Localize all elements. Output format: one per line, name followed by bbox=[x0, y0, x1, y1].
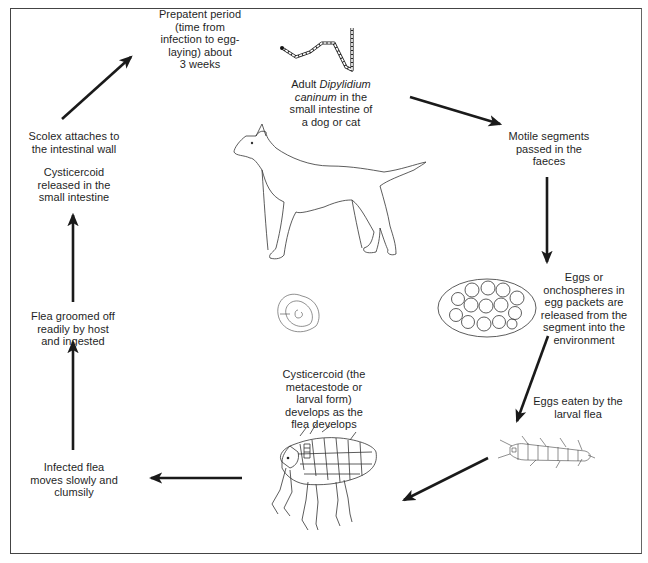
label-line: released from the bbox=[532, 309, 636, 322]
label-line: larval form) bbox=[268, 393, 380, 406]
label-line: Infected flea bbox=[22, 461, 126, 474]
label-line: a dog or cat bbox=[276, 116, 386, 129]
label-line: Prepatent period bbox=[145, 8, 255, 21]
label-text: in the bbox=[337, 91, 367, 103]
label-cysticercoid-released: Cysticercoid released in the small intes… bbox=[22, 166, 126, 204]
label-line: and ingested bbox=[20, 335, 126, 348]
label-line: onchospheres in bbox=[532, 284, 636, 297]
label-line: egg packets are bbox=[532, 296, 636, 309]
label-line: clumsily bbox=[22, 486, 126, 499]
label-line: released in the bbox=[22, 179, 126, 192]
species-name: Dipylidium bbox=[320, 78, 371, 90]
label-eggs-eaten: Eggs eaten by the larval flea bbox=[524, 395, 632, 420]
label-line: Cysticercoid (the bbox=[268, 368, 380, 381]
label-line: flea develops bbox=[268, 418, 380, 431]
label-infected-flea: Infected flea moves slowly and clumsily bbox=[22, 461, 126, 499]
label-line: readily by host bbox=[20, 323, 126, 336]
label-line: passed in the bbox=[494, 143, 604, 156]
label-line: Cysticercoid bbox=[22, 166, 126, 179]
label-line: Eggs eaten by the bbox=[524, 395, 632, 408]
label-flea-groomed: Flea groomed off readily by host and ing… bbox=[20, 310, 126, 348]
label-line: small intestine of bbox=[276, 103, 386, 116]
label-adult-dipylidium: Adult Dipylidium caninum in the small in… bbox=[276, 78, 386, 128]
label-line: (time from bbox=[145, 21, 255, 34]
label-line: segment into the bbox=[532, 321, 636, 334]
label-line: Scolex attaches to bbox=[14, 130, 134, 143]
label-scolex-attaches: Scolex attaches to the intestinal wall bbox=[14, 130, 134, 155]
label-line: the intestinal wall bbox=[14, 143, 134, 156]
label-text: Adult bbox=[291, 78, 319, 90]
species-name: caninum bbox=[295, 91, 337, 103]
label-line: metacestode or bbox=[268, 381, 380, 394]
label-line: 3 weeks bbox=[145, 58, 255, 71]
label-line: Adult Dipylidium bbox=[276, 78, 386, 91]
label-prepatent-period: Prepatent period (time from infection to… bbox=[145, 8, 255, 71]
label-line: small intestine bbox=[22, 191, 126, 204]
label-line: Eggs or bbox=[532, 271, 636, 284]
label-line: caninum in the bbox=[276, 91, 386, 104]
label-line: infection to egg- bbox=[145, 33, 255, 46]
label-motile-segments: Motile segments passed in the faeces bbox=[494, 130, 604, 168]
label-cysticercoid-develops: Cysticercoid (the metacestode or larval … bbox=[268, 368, 380, 431]
label-line: laying) about bbox=[145, 46, 255, 59]
label-line: larval flea bbox=[524, 408, 632, 421]
label-line: moves slowly and bbox=[22, 474, 126, 487]
label-line: environment bbox=[532, 334, 636, 347]
label-line: Flea groomed off bbox=[20, 310, 126, 323]
label-line: develops as the bbox=[268, 406, 380, 419]
label-line: faeces bbox=[494, 155, 604, 168]
label-line: Motile segments bbox=[494, 130, 604, 143]
label-eggs-released: Eggs or onchospheres in egg packets are … bbox=[532, 271, 636, 347]
